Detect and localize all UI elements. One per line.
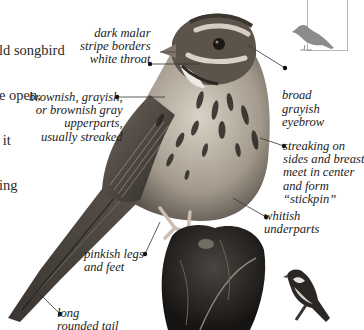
label-pinkish-legs: pinkish legs and feet (84, 248, 144, 274)
label-dark-malar-stripe: dark malar stripe borders white throat (80, 27, 151, 67)
label-streaking-stickpin: streaking on sides and breast meet in ce… (283, 140, 364, 206)
label-upperparts: brownish, grayish, or brownish gray uppe… (29, 91, 123, 144)
label-long-rounded-tail: long rounded tail (57, 307, 118, 330)
label-broad-eyebrow-text: broad grayish eyebrow (282, 89, 324, 129)
sparrow-thumbnail-illustration (283, 270, 330, 322)
perched-bird-silhouette-icon (292, 25, 334, 50)
label-whitish-underparts: whitish underparts (264, 210, 319, 236)
stump-perch (162, 225, 266, 330)
